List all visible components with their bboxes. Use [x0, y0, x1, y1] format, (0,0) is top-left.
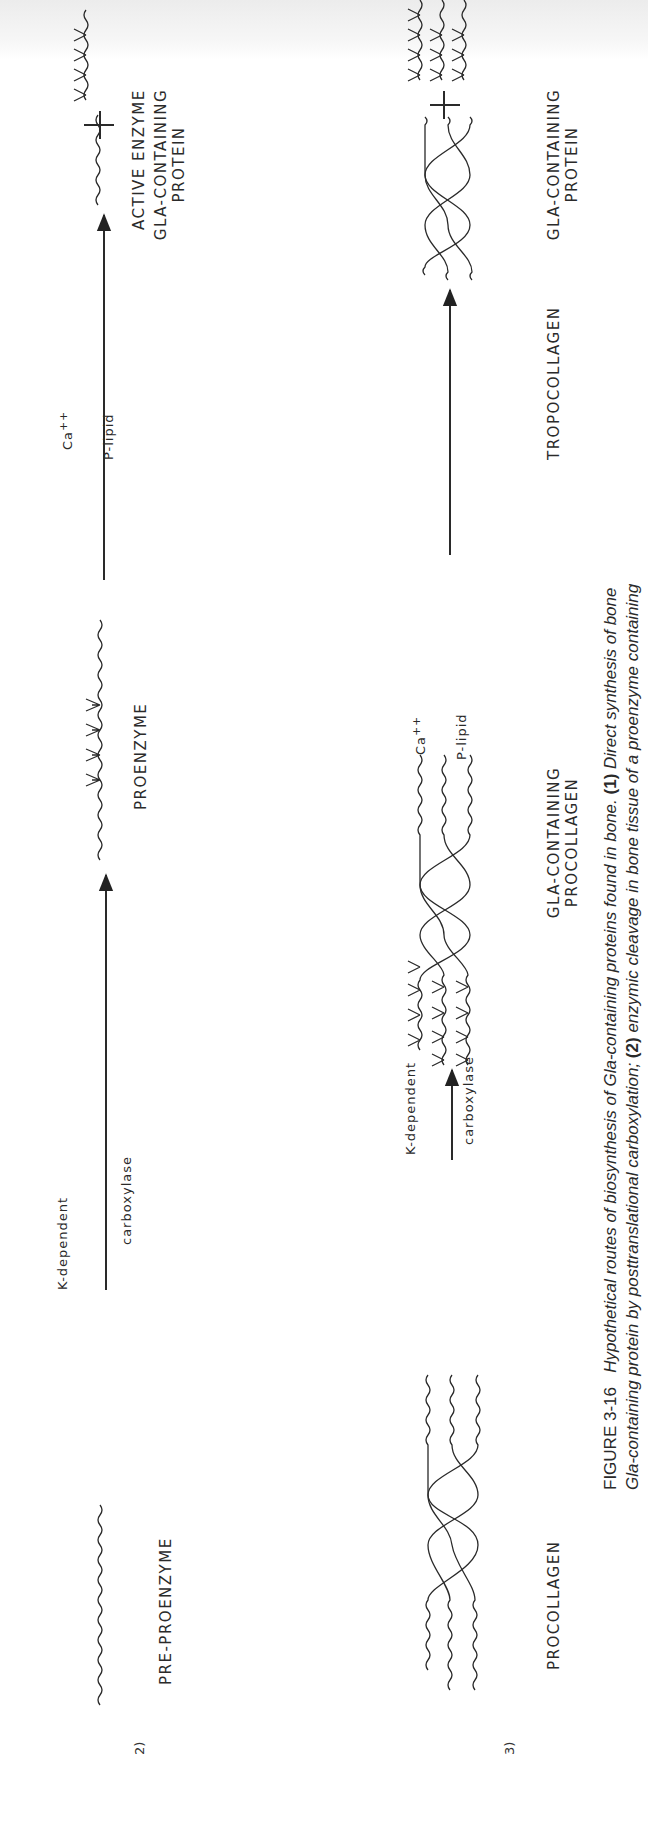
gla-procollagen-branches [408, 961, 468, 1066]
route2-product2-line1: GLA-CONTAINING [152, 82, 170, 247]
route3-step1-below: carboxylase [460, 1056, 478, 1145]
gla-procollagen-line1: GLA-CONTAINING [545, 760, 563, 925]
figure-number: FIGURE 3-16 [601, 1387, 620, 1490]
pre-proenzyme-chain [98, 1505, 102, 1705]
route2-product2-label: GLA-CONTAINING PROTEIN [152, 82, 188, 247]
active-enzyme-label: ACTIVE ENZYME [130, 89, 148, 230]
proenzyme-label: PROENZYME [132, 703, 150, 810]
route2-step1-above: K-dependent [54, 1197, 72, 1290]
calcium-charge: ++ [410, 716, 423, 736]
proenzyme-chain [98, 620, 102, 860]
calcium-symbol: Ca [60, 431, 75, 450]
figure-caption-line2: Gla-containing protein by posttranslatio… [622, 584, 644, 1490]
route3-product2-label: GLA-CONTAINING PROTEIN [545, 82, 581, 247]
caption-line2-a: Gla-containing protein by posttranslatio… [623, 1063, 642, 1490]
pre-proenzyme-label: PRE-PROENZYME [157, 1537, 175, 1685]
caption-title: Hypothetical routes of biosynthesis of G… [601, 799, 620, 1373]
figure-caption-line1: FIGURE 3-16 Hypothetical routes of biosy… [600, 588, 622, 1490]
route3-step2-below: P-lipid [453, 713, 471, 760]
gla-procollagen-label: GLA-CONTAINING PROCOLLAGEN [545, 760, 581, 925]
route2-step2-below: P-lipid [100, 413, 118, 460]
route3-step2-above: Ca++ [408, 716, 430, 755]
caption-part1-text: Direct synthesis of bone [601, 588, 620, 769]
route3-product2-line1: GLA-CONTAINING [545, 82, 563, 247]
rotated-figure-page: 2) PRE-PROENZYME K-dependent carboxylase… [0, 0, 648, 1845]
procollagen-triple-helix [426, 1375, 480, 1690]
calcium-charge: ++ [57, 411, 70, 431]
route2-step1-below: carboxylase [118, 1156, 136, 1245]
caption-part2-number: (2) [623, 1037, 642, 1058]
gla-protein-branches [74, 29, 86, 101]
route2-step2-above: Ca++ [55, 411, 77, 450]
tropocollagen-helix [423, 117, 472, 280]
gla-procollagen-line2: PROCOLLAGEN [563, 760, 581, 925]
route2-product2-line2: PROTEIN [170, 82, 188, 247]
route3-product2-line2: PROTEIN [563, 82, 581, 247]
calcium-symbol: Ca [413, 736, 428, 755]
gla-procollagen-helix [418, 755, 472, 1065]
route3-step1-above: K-dependent [402, 1062, 420, 1155]
caption-line2-b: enzymic cleavage in bone tissue of a pro… [623, 584, 642, 1033]
route3-number: 3) [502, 1742, 517, 1755]
route2-number: 2) [132, 1742, 147, 1755]
route2-plus [84, 111, 114, 139]
gla-protein-fragments [408, 0, 466, 81]
procollagen-label: PROCOLLAGEN [545, 1541, 563, 1670]
route3-plus-sign [430, 91, 460, 119]
caption-part1-number: (1) [601, 774, 620, 795]
tropocollagen-label: TROPOCOLLAGEN [545, 307, 563, 460]
